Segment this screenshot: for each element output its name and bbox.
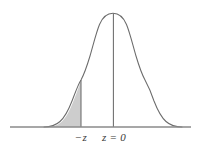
- axis-tick-label-neg-z: −z: [75, 131, 87, 143]
- normal-distribution-figure: −z z = 0: [0, 0, 201, 155]
- shaded-left-tail-region: [47, 80, 82, 127]
- normal-curve-plot: [0, 0, 201, 155]
- axis-tick-label-z-zero: z = 0: [102, 131, 126, 143]
